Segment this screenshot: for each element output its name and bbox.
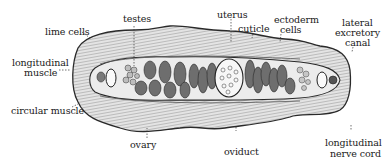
label-ovary: ovary bbox=[130, 140, 156, 150]
label-circular-muscle: circular muscle bbox=[11, 106, 84, 116]
label-oviduct: oviduct bbox=[224, 147, 259, 157]
label-lateral-excretory-canal-line3: canal bbox=[345, 38, 370, 48]
anatomical-diagram: testes lime cells longitudinal muscle ci… bbox=[0, 0, 389, 166]
label-ectoderm-cells-line2: cells bbox=[280, 25, 301, 35]
label-testes: testes bbox=[123, 14, 151, 24]
left-oval-structure bbox=[106, 69, 116, 87]
label-lime-cells: lime cells bbox=[45, 27, 90, 37]
label-longitudinal-muscle-line2: muscle bbox=[24, 68, 57, 78]
label-uterus: uterus bbox=[217, 10, 248, 20]
label-longitudinal-nerve-cord-line2: nerve cord bbox=[330, 149, 381, 159]
label-longitudinal-nerve-cord-line1: longitudinal bbox=[325, 138, 382, 148]
right-oval-structure bbox=[317, 72, 327, 88]
label-cuticle: cuticle bbox=[238, 24, 270, 34]
